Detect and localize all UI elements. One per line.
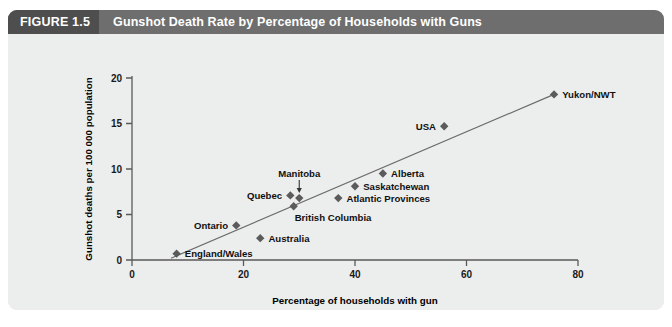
- svg-text:Australia: Australia: [268, 233, 310, 244]
- svg-text:40: 40: [349, 269, 361, 280]
- svg-text:0: 0: [116, 255, 122, 266]
- svg-text:5: 5: [116, 209, 122, 220]
- svg-text:10: 10: [111, 164, 123, 175]
- scatter-chart: 02040608005101520 England/WalesOntarioAu…: [8, 34, 664, 310]
- figure-title: Gunshot Death Rate by Percentage of Hous…: [99, 15, 482, 29]
- svg-text:15: 15: [111, 118, 123, 129]
- plot-region: 02040608005101520 England/WalesOntarioAu…: [8, 34, 664, 310]
- svg-text:Ontario: Ontario: [194, 220, 228, 231]
- svg-text:80: 80: [572, 269, 584, 280]
- svg-text:0: 0: [129, 269, 135, 280]
- svg-text:20: 20: [238, 269, 250, 280]
- svg-text:20: 20: [111, 73, 123, 84]
- svg-text:Quebec: Quebec: [247, 190, 283, 201]
- svg-text:Gunshot deaths per 100 000 pop: Gunshot deaths per 100 000 population: [83, 77, 94, 260]
- chart-ticks: [126, 78, 578, 266]
- svg-text:Atlantic Provinces: Atlantic Provinces: [346, 193, 430, 204]
- data-point-labels: England/WalesOntarioAustraliaBritish Col…: [185, 89, 616, 259]
- svg-text:Percentage of households with: Percentage of households with gun: [272, 295, 437, 306]
- svg-text:British Columbia: British Columbia: [295, 212, 372, 223]
- svg-text:60: 60: [461, 269, 473, 280]
- svg-text:Alberta: Alberta: [391, 168, 425, 179]
- figure-number-label: FIGURE 1.5: [20, 15, 90, 29]
- svg-text:England/Wales: England/Wales: [185, 248, 253, 259]
- figure-number-badge: FIGURE 1.5: [8, 10, 99, 34]
- chart-axes: [132, 76, 578, 260]
- figure-card: FIGURE 1.5 Gunshot Death Rate by Percent…: [8, 10, 664, 310]
- figure-header: FIGURE 1.5 Gunshot Death Rate by Percent…: [8, 10, 664, 34]
- svg-text:Saskatchewan: Saskatchewan: [363, 181, 429, 192]
- chart-tick-labels: 02040608005101520: [111, 73, 584, 281]
- svg-text:Manitoba: Manitoba: [278, 168, 321, 179]
- svg-text:Yukon/NWT: Yukon/NWT: [562, 89, 615, 100]
- trend-line: [171, 94, 554, 258]
- svg-text:USA: USA: [416, 121, 436, 132]
